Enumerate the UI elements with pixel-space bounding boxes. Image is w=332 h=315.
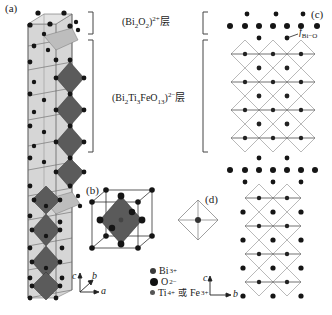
panel-a-label: (a) [5,2,17,14]
ti-fe-atom-icon [150,290,155,295]
panel-d-label: (d) [205,193,218,205]
bi2o2-layer-label: (Bi2O2)2+层 [122,13,170,30]
o-atom-icon [150,278,158,286]
bi-atom-icon [150,268,156,274]
axis-b-label-c: b [233,288,238,299]
panel-d-structure [178,200,218,240]
layer-brackets [88,12,208,152]
axes-bc [208,276,231,297]
axis-a-label-a: a [101,285,106,296]
bi-o-bond-label: fBi−O [299,26,317,40]
panel-c-label: (c) [311,8,323,20]
axis-c-label-c: c [203,272,207,283]
perovskite-layer-label: (Bi2Ti3FeO13)2−层 [112,89,185,106]
axis-c-label-a: c [72,270,76,281]
legend: Bi3+ O2− Ti4+ 或 Fe3+ [150,265,208,298]
panel-b-structure [89,187,155,251]
panel-a-structure [27,10,86,300]
axis-b-label-a: b [92,270,97,281]
legend-item-ti-fe: Ti4+ 或 Fe3+ [150,287,208,298]
panel-b-label: (b) [86,184,99,196]
legend-item-bi: Bi3+ [150,265,208,276]
panel-c-structure [227,12,320,299]
